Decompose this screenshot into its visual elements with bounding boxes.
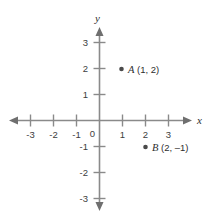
x-axis-right-arrow-icon xyxy=(183,117,192,125)
point-b-label: B (2, –1) xyxy=(152,142,189,153)
y-axis-up-arrow-icon xyxy=(96,27,104,36)
y-tick-label--3: -3 xyxy=(80,193,88,204)
x-axis-left-arrow-icon xyxy=(9,117,18,125)
x-axis-label: x xyxy=(196,114,202,126)
x-tick-label-3: 3 xyxy=(166,129,171,140)
y-tick-label-3: 3 xyxy=(83,37,88,48)
y-axis-label: y xyxy=(94,12,100,24)
x-tick-label--2: -2 xyxy=(49,129,57,140)
x-tick-label-1: 1 xyxy=(120,129,125,140)
x-tick-label--1: -1 xyxy=(72,129,80,140)
y-tick-label--2: -2 xyxy=(80,167,88,178)
coordinate-plane-svg: -3 -2 -1 1 2 3 3 2 1 -1 -2 -3 0 x y A (1… xyxy=(0,0,211,222)
y-tick-label-1: 1 xyxy=(83,89,88,100)
point-a-label: A (1, 2) xyxy=(127,64,159,75)
point-a-coords: (1, 2) xyxy=(134,64,159,75)
y-tick-label--1: -1 xyxy=(80,141,88,152)
y-tick-label-2: 2 xyxy=(83,63,88,74)
y-axis-down-arrow-icon xyxy=(96,202,104,211)
coordinate-plane-figure: -3 -2 -1 1 2 3 3 2 1 -1 -2 -3 0 x y A (1… xyxy=(0,0,211,222)
x-tick-label-2: 2 xyxy=(143,129,148,140)
point-b-dot xyxy=(143,145,148,150)
point-a-dot xyxy=(119,67,124,72)
point-b-coords: (2, –1) xyxy=(158,142,188,153)
origin-label: 0 xyxy=(90,128,95,139)
x-tick-label--3: -3 xyxy=(26,129,34,140)
